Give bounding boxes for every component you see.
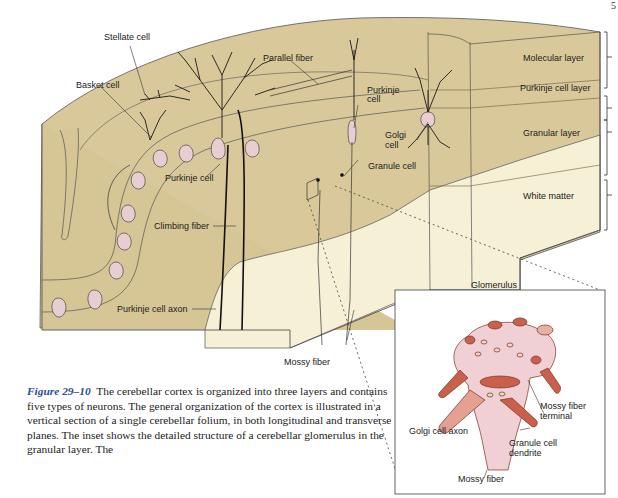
label-inset-mossy-fiber: Mossy fiber — [458, 474, 504, 484]
label-golgi-cell-axon: Golgi cell axon — [409, 426, 468, 436]
figure-caption: Figure 29–10 The cerebellar cortex is or… — [27, 384, 397, 457]
label-granule-cell: Granule cell — [368, 161, 416, 171]
label-molecular-layer: Molecular layer — [523, 53, 584, 63]
label-mossy-fiber: Mossy fiber — [284, 357, 330, 367]
label-golgi-cell-1: Golgi — [385, 130, 406, 140]
label-granule-cell-dendrite-1: Granule cell — [509, 438, 557, 448]
label-white-matter: White matter — [523, 191, 574, 201]
page-number: 5 — [611, 0, 616, 11]
figure-number: Figure 29–10 — [27, 385, 91, 397]
label-granular-layer: Granular layer — [523, 128, 580, 138]
label-purkinje-cell-upper-2: cell — [367, 94, 381, 104]
layer-bracket — [604, 32, 612, 230]
label-basket-cell: Basket cell — [76, 80, 120, 90]
label-mossy-fiber-terminal-1: Mossy fiber — [540, 401, 586, 411]
glomerulus-inset — [395, 290, 605, 494]
inset-title-glomerulus: Glomerulus — [471, 280, 517, 290]
label-climbing-fiber: Climbing fiber — [154, 221, 209, 231]
label-purkinje-cell-axon: Purkinje cell axon — [117, 304, 188, 314]
label-granule-cell-dendrite-2: dendrite — [509, 448, 542, 458]
label-parallel-fiber: Parallel fiber — [263, 53, 313, 63]
label-purkinje-cell: Purkinje cell — [165, 173, 214, 183]
label-golgi-cell-2: cell — [385, 140, 399, 150]
label-mossy-fiber-terminal-2: terminal — [540, 411, 572, 421]
label-purkinje-cell-layer: Purkinje cell layer — [520, 83, 591, 93]
label-stellate-cell: Stellate cell — [104, 32, 150, 42]
